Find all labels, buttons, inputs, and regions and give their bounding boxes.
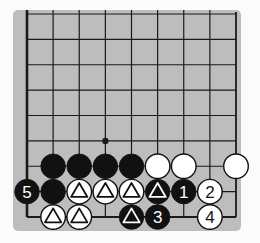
black-stone: [119, 154, 144, 179]
star-point: [102, 138, 108, 144]
black-stone: 3: [145, 205, 170, 230]
white-stone: [93, 179, 118, 204]
move-number: 3: [153, 208, 162, 227]
white-stone: 2: [198, 179, 223, 204]
black-stone: [119, 205, 144, 230]
white-stone: [224, 154, 249, 179]
go-board-diagram: 51234: [0, 0, 260, 243]
white-stone: [145, 154, 170, 179]
white-stone: [67, 179, 92, 204]
white-stone: 4: [198, 205, 223, 230]
move-number: 4: [205, 208, 214, 227]
star-points: [102, 138, 108, 144]
black-stone: 5: [15, 179, 40, 204]
black-stone: 1: [171, 179, 196, 204]
white-stone: [41, 205, 66, 230]
move-number: 5: [22, 183, 31, 202]
white-stone: [171, 154, 196, 179]
black-stone: [67, 154, 92, 179]
move-number: 2: [205, 183, 214, 202]
black-stone: [93, 154, 118, 179]
black-stone: [41, 154, 66, 179]
white-stone: [67, 205, 92, 230]
move-number: 1: [179, 183, 188, 202]
black-stone: [41, 179, 66, 204]
white-stone: [119, 179, 144, 204]
black-stone: [145, 179, 170, 204]
